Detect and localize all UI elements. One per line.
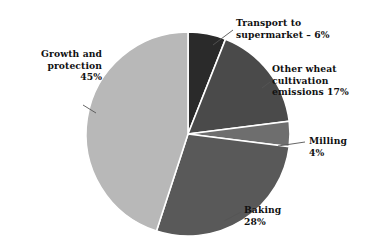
- slice-label-growth-and-protection: Growth and protection 45%: [6, 48, 102, 83]
- slice-label-milling: Milling 4%: [309, 135, 379, 158]
- slice-label-other-wheat-cultivation: Other wheat cultivation emissions 17%: [272, 63, 380, 98]
- pie-chart: Transport to supermarket – 6% Other whea…: [0, 0, 381, 249]
- slice-label-transport: Transport to supermarket – 6%: [236, 17, 376, 40]
- slice-label-baking: Baking 28%: [244, 204, 324, 227]
